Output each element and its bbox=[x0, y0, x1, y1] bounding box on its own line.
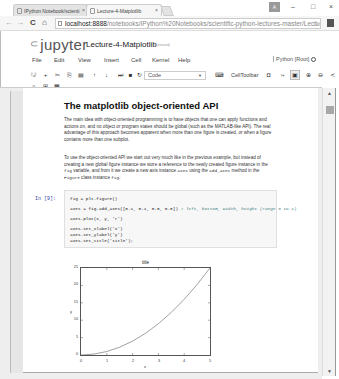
save-icon[interactable]: 🖫 bbox=[29, 71, 38, 80]
home-icon[interactable]: ⌂ bbox=[42, 18, 47, 27]
browser-titlebar: IPython Notebook/scienti × Lecture-4-Mat… bbox=[0, 0, 339, 16]
close-tab-icon[interactable]: × bbox=[82, 7, 85, 13]
move-up-icon[interactable]: ↑ bbox=[90, 71, 99, 80]
vertical-scrollbar[interactable]: ▲ ▼ bbox=[322, 88, 336, 376]
menu-edit[interactable]: Edit bbox=[54, 57, 64, 63]
cell-type-select[interactable]: Code▼ bbox=[144, 71, 206, 80]
menu-cell[interactable]: Cell bbox=[131, 57, 141, 63]
y-tick-label: 10 bbox=[70, 317, 78, 321]
run-icon[interactable]: ⏭ bbox=[116, 71, 125, 80]
celltoolbar-label[interactable]: CellToolbar bbox=[231, 72, 259, 78]
copy-icon[interactable]: ⎘ bbox=[65, 71, 74, 80]
markdown-paragraph: To use the object-oriented API we start … bbox=[64, 155, 274, 181]
new-tab-button[interactable] bbox=[160, 6, 174, 16]
menu-help[interactable]: Help bbox=[178, 57, 190, 63]
url-path: /notebooks/IPython%20Notebooks/scientifi… bbox=[107, 20, 321, 27]
code-line: axes = fig.add_axes([0.1, 0.1, 0.8, 0.8]… bbox=[70, 206, 297, 211]
kernel-status-icon bbox=[311, 57, 316, 62]
jupyter-header: ⊂jupyter Lecture-4-Matplotlib (autosaved… bbox=[0, 31, 339, 87]
x-tick-label: 2 bbox=[132, 359, 134, 363]
presentation-icon[interactable]: ▣ bbox=[290, 70, 300, 80]
address-bar-row: ← → C ⌂ localhost:8888/notebooks/IPython… bbox=[0, 16, 339, 31]
chart-plot-area bbox=[80, 267, 211, 356]
tab-ipython-notebook[interactable]: IPython Notebook/scienti × bbox=[13, 4, 89, 16]
code-line: axes.plot(x, y, 'r') bbox=[70, 216, 123, 221]
chevron-down-icon: ▼ bbox=[198, 72, 202, 79]
close-tab-icon[interactable]: × bbox=[155, 7, 158, 13]
scrollbar-thumb[interactable] bbox=[326, 106, 334, 114]
x-tick-label: 1 bbox=[106, 359, 108, 363]
y-tick-label: 25 bbox=[70, 265, 78, 269]
line-chart bbox=[81, 268, 210, 355]
scroll-up-icon[interactable]: ▲ bbox=[327, 90, 332, 96]
tab-label: Lecture-4-Matplotlib bbox=[97, 8, 141, 14]
close-window-button[interactable]: × bbox=[321, 0, 339, 14]
x-tick-label: 0 bbox=[80, 359, 82, 363]
insert-cell-icon[interactable]: + bbox=[41, 71, 50, 80]
jupyter-logo[interactable]: ⊂jupyter bbox=[30, 36, 87, 53]
y-tick-label: 20 bbox=[70, 282, 78, 286]
bookmark-star-icon[interactable]: ☆ bbox=[313, 19, 319, 29]
x-tick-label: 5 bbox=[209, 359, 211, 363]
cut-icon[interactable]: ✂ bbox=[53, 71, 62, 80]
chart-title: title bbox=[142, 260, 149, 265]
page-icon bbox=[17, 8, 22, 14]
y-tick-label: 5 bbox=[70, 335, 78, 339]
browser-menu-icon[interactable] bbox=[327, 19, 334, 27]
camera-icon[interactable]: ◘ bbox=[264, 71, 273, 80]
autosave-status: (autosaved) bbox=[154, 43, 170, 47]
user-profile-button[interactable]: A bbox=[269, 2, 280, 12]
code-line: axes.set_xlabel('x') bbox=[70, 226, 123, 231]
forward-icon[interactable]: → bbox=[16, 18, 24, 27]
code-cell-editor[interactable]: fig = plt.figure() axes = fig.add_axes([… bbox=[64, 190, 277, 248]
restart-icon[interactable]: ↻ bbox=[135, 71, 144, 80]
share-icon[interactable]: ≺ bbox=[328, 71, 337, 80]
y-tick-label: 15 bbox=[70, 300, 78, 304]
zoom-out-icon[interactable]: ⊖ bbox=[316, 71, 325, 80]
menu-view[interactable]: View bbox=[78, 57, 91, 63]
kernel-indicator: Python [Root] bbox=[273, 56, 309, 62]
notebook-name[interactable]: Lecture-4-Matplotlib bbox=[86, 40, 157, 49]
link-icon[interactable]: ⤷ bbox=[278, 71, 287, 80]
code-line: fig = plt.figure() bbox=[70, 196, 117, 201]
keyboard-icon[interactable]: ⌨ bbox=[215, 71, 224, 80]
zoom-in-icon[interactable]: ⊕ bbox=[304, 71, 313, 80]
reload-icon[interactable]: C bbox=[30, 18, 36, 27]
stop-icon[interactable]: ■ bbox=[126, 71, 135, 80]
markdown-paragraph: The main idea with object-oriented progr… bbox=[64, 117, 274, 143]
y-tick-label: 0 bbox=[70, 352, 78, 356]
url-input[interactable]: localhost:8888/notebooks/IPython%20Noteb… bbox=[55, 18, 321, 29]
x-tick-label: 4 bbox=[183, 359, 185, 363]
menu-kernel[interactable]: Kernel bbox=[152, 57, 169, 63]
menu-file[interactable]: File bbox=[32, 57, 42, 63]
markdown-heading: The matplotlib object-oriented API bbox=[64, 100, 218, 111]
paste-icon[interactable]: ▤ bbox=[76, 71, 85, 80]
x-tick-label: 3 bbox=[158, 359, 160, 363]
maximize-button[interactable]: □ bbox=[303, 0, 323, 14]
code-line: axes.set_title('title'); bbox=[70, 238, 133, 243]
notebook-left-gutter bbox=[10, 91, 23, 373]
tab-label: IPython Notebook/scienti bbox=[24, 8, 79, 14]
page-icon bbox=[58, 21, 62, 26]
move-down-icon[interactable]: ↓ bbox=[102, 71, 111, 80]
page-icon bbox=[90, 8, 95, 14]
scroll-down-icon[interactable]: ▼ bbox=[327, 368, 332, 374]
input-prompt: In [9]: bbox=[35, 196, 56, 202]
url-host: localhost:8888 bbox=[65, 20, 107, 27]
tab-lecture-4[interactable]: Lecture-4-Matplotlib × bbox=[86, 4, 162, 16]
back-icon[interactable]: ← bbox=[5, 18, 13, 27]
menu-insert[interactable]: Insert bbox=[104, 57, 119, 63]
code-line: axes.set_ylabel('y') bbox=[70, 232, 123, 237]
x-axis-label: x bbox=[144, 364, 146, 369]
data-line bbox=[81, 268, 210, 355]
y-axis-label: y bbox=[70, 309, 72, 314]
minimize-button[interactable]: – bbox=[283, 0, 303, 14]
